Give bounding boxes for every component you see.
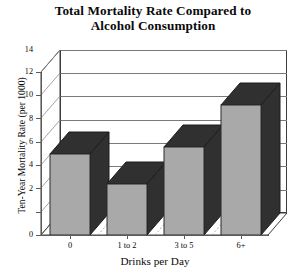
bar-group-3 <box>0 0 301 278</box>
y-tick-label-0: 0 <box>3 231 33 239</box>
bar-side-3 <box>261 83 280 235</box>
x-tick-label-1: 1 to 2 <box>100 241 154 250</box>
x-tick-label-2: 3 to 5 <box>157 241 211 250</box>
x-tick-3 <box>241 235 242 239</box>
y-tick-6 <box>36 165 41 166</box>
y-tick-4 <box>36 188 41 189</box>
y-axis-title: Ten-Year Mortality Rate (per 1000) <box>16 61 27 231</box>
x-tick-1 <box>127 235 128 239</box>
y-tick-14 <box>36 72 41 73</box>
x-tick-2 <box>184 235 185 239</box>
y-tick-10 <box>36 118 41 119</box>
y-tick-8 <box>36 142 41 143</box>
x-tick-label-3: 6+ <box>214 241 268 250</box>
bar-front-3 <box>221 105 261 235</box>
x-tick-label-0: 0 <box>43 241 97 250</box>
y-axis-line <box>41 72 42 235</box>
y-tick-12 <box>36 95 41 96</box>
y-tick-2 <box>36 212 41 213</box>
chart-figure: Total Mortality Rate Compared to Alcohol… <box>0 0 301 278</box>
plot-area: 14 12 10 8 6 4 2 0 Ten-Year Mortality Ra… <box>0 0 301 278</box>
x-axis-title: Drinks per Day <box>41 255 269 267</box>
x-axis-line <box>41 235 269 236</box>
x-tick-0 <box>70 235 71 239</box>
y-tick-label-14: 14 <box>3 46 33 54</box>
